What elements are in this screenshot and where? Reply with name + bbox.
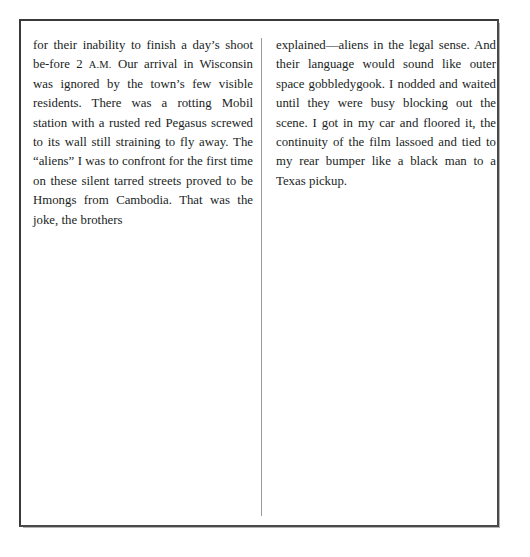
- left-column-text-after-smallcaps: Our arrival in Wisconsin was ignored by …: [33, 57, 253, 226]
- text-column-left: for their inability to finish a day’s sh…: [33, 36, 253, 230]
- right-column-paragraph: explained—aliens in the legal sense. And…: [276, 36, 496, 191]
- small-caps-am: A.M.: [89, 59, 112, 70]
- column-divider-rule: [261, 38, 262, 516]
- text-columns: for their inability to finish a day’s sh…: [33, 36, 497, 516]
- left-column-paragraph: for their inability to finish a day’s sh…: [33, 36, 253, 230]
- scanned-page: for their inability to finish a day’s sh…: [0, 0, 530, 557]
- text-column-right: explained—aliens in the legal sense. And…: [276, 36, 496, 191]
